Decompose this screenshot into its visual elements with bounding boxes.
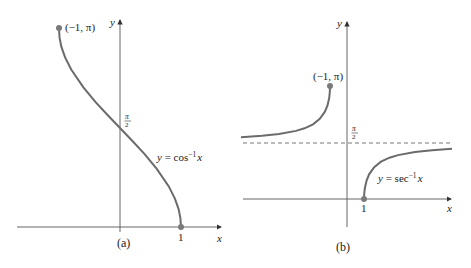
panel-a-tick-1: 1 [178,231,184,243]
panel-b-arcsec-left-branch [241,87,330,137]
panel-a-point-label: (−1, π) [65,21,95,34]
panel-b-endpoint-minus1-pi [327,83,333,89]
panel-a-pi-over-2-label: π 2 [125,112,132,129]
panel-a-x-axis-label: x [216,232,222,244]
panel-b-y-axis-label: y [336,17,342,29]
svg-text:π: π [125,112,129,121]
figure-canvas: y x 1 π 2 (−1, π) y = cos−1x (a) y x 1 π… [0,0,471,268]
panel-a-endpoint-minus1-pi [56,25,62,31]
panel-b-point-label: (−1, π) [313,70,343,83]
panel-b-tick-1: 1 [361,202,367,214]
panel-b-function-label: y = sec−1x [377,171,423,184]
svg-text:π: π [352,124,356,133]
panel-a-arccos: y x 1 π 2 (−1, π) y = cos−1x (a) [17,16,222,250]
svg-text:2: 2 [125,121,129,129]
panel-b-caption: (b) [336,240,350,254]
panel-b-x-axis-label: x [446,202,452,214]
panel-a-caption: (a) [117,236,130,250]
panel-a-function-label: y = cos−1x [156,150,202,163]
svg-text:2: 2 [352,133,356,141]
panel-b-pi-over-2-label: π 2 [352,124,359,141]
panel-a-y-axis-label: y [109,16,115,28]
panel-b-arcsec: y x 1 π 2 (−1, π) y = sec−1x (b) [241,17,452,254]
panel-a-endpoint-1-0 [178,224,184,230]
